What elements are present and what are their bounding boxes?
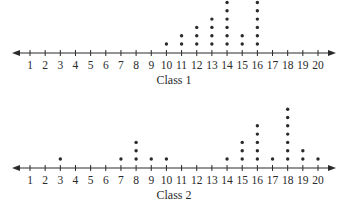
data-dot	[150, 157, 153, 160]
data-dot	[256, 42, 259, 45]
tick-label: 5	[88, 174, 94, 186]
data-dot	[286, 141, 289, 144]
data-dot	[286, 116, 289, 119]
data-dot	[225, 1, 228, 4]
left-arrow-icon	[12, 165, 20, 171]
tick-label: 2	[42, 59, 48, 71]
data-dot	[195, 34, 198, 37]
tick-label: 3	[57, 59, 63, 71]
data-dot	[301, 149, 304, 152]
data-dot	[286, 157, 289, 160]
tick-label: 7	[118, 174, 124, 186]
data-dot	[134, 141, 137, 144]
tick-label: 20	[312, 59, 324, 71]
data-dot	[210, 34, 213, 37]
data-dot	[256, 132, 259, 135]
tick-label: 4	[73, 174, 79, 186]
tick-label: 17	[267, 174, 279, 186]
tick-label: 5	[88, 59, 94, 71]
right-arrow-icon	[328, 50, 336, 56]
data-dot	[271, 157, 274, 160]
tick-label: 17	[267, 59, 279, 71]
tick-label: 2	[42, 174, 48, 186]
data-dot	[241, 34, 244, 37]
tick-label: 8	[133, 59, 139, 71]
tick-label: 16	[252, 174, 264, 186]
data-dot	[286, 149, 289, 152]
tick-label: 18	[282, 59, 294, 71]
tick-label: 10	[161, 174, 173, 186]
data-dot	[256, 124, 259, 127]
data-dot	[225, 26, 228, 29]
tick-label: 4	[73, 59, 79, 71]
data-dot	[286, 108, 289, 111]
tick-label: 6	[103, 174, 109, 186]
plot-title: Class 1	[156, 73, 191, 87]
tick-label: 12	[191, 174, 203, 186]
data-dot	[256, 149, 259, 152]
data-dot	[210, 17, 213, 20]
tick-label: 13	[206, 59, 218, 71]
dot-plot-1: 1234567891011121314151617181920Class 1	[12, 1, 336, 87]
tick-label: 6	[103, 59, 109, 71]
tick-label: 11	[176, 59, 187, 71]
data-dot	[225, 34, 228, 37]
data-dot	[180, 34, 183, 37]
tick-label: 19	[297, 59, 309, 71]
data-dot	[256, 1, 259, 4]
plot-title: Class 2	[156, 188, 191, 202]
dot-plots: 1234567891011121314151617181920Class 112…	[0, 0, 347, 209]
tick-label: 3	[57, 174, 63, 186]
tick-label: 16	[252, 59, 264, 71]
data-dot	[195, 42, 198, 45]
data-dot	[134, 157, 137, 160]
tick-label: 10	[161, 59, 173, 71]
data-dot	[286, 132, 289, 135]
data-dot	[195, 26, 198, 29]
data-dot	[119, 157, 122, 160]
data-dot	[225, 9, 228, 12]
data-dot	[165, 42, 168, 45]
tick-label: 15	[236, 174, 248, 186]
tick-label: 8	[133, 174, 139, 186]
data-dot	[256, 26, 259, 29]
data-dot	[256, 157, 259, 160]
data-dot	[210, 26, 213, 29]
tick-label: 11	[176, 174, 187, 186]
data-dot	[286, 124, 289, 127]
data-dot	[256, 141, 259, 144]
data-dot	[134, 149, 137, 152]
data-dot	[256, 17, 259, 20]
tick-label: 18	[282, 174, 294, 186]
data-dot	[241, 149, 244, 152]
data-dot	[241, 42, 244, 45]
tick-label: 12	[191, 59, 203, 71]
dot-plot-2: 1234567891011121314151617181920Class 2	[12, 108, 336, 203]
tick-label: 20	[312, 174, 324, 186]
data-dot	[165, 157, 168, 160]
tick-label: 14	[221, 174, 233, 186]
data-dot	[180, 42, 183, 45]
tick-label: 15	[236, 59, 248, 71]
data-dot	[316, 157, 319, 160]
tick-label: 13	[206, 174, 218, 186]
data-dot	[59, 157, 62, 160]
data-dot	[225, 157, 228, 160]
data-dot	[225, 17, 228, 20]
data-dot	[256, 34, 259, 37]
data-dot	[256, 9, 259, 12]
tick-label: 1	[27, 174, 33, 186]
tick-label: 9	[148, 174, 154, 186]
tick-label: 19	[297, 174, 309, 186]
left-arrow-icon	[12, 50, 20, 56]
data-dot	[225, 42, 228, 45]
tick-label: 9	[148, 59, 154, 71]
tick-label: 1	[27, 59, 33, 71]
data-dot	[241, 157, 244, 160]
data-dot	[301, 157, 304, 160]
right-arrow-icon	[328, 165, 336, 171]
tick-label: 14	[221, 59, 233, 71]
tick-label: 7	[118, 59, 124, 71]
data-dot	[241, 141, 244, 144]
data-dot	[210, 42, 213, 45]
